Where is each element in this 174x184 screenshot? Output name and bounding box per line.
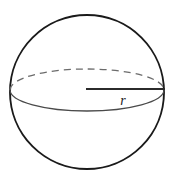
sphere-outline-circle [10,15,164,169]
sphere-diagram: r [0,0,174,184]
radius-label-r: r [120,93,126,108]
sphere-diagram-canvas: r [0,0,174,184]
